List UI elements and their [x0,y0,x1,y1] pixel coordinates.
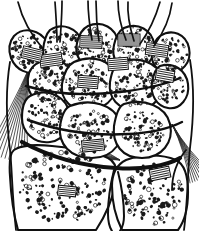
interosseous-ligament-band [145,43,168,58]
interosseous-ligament-band [78,75,99,88]
interosseous-ligament-band [118,34,140,46]
interosseous-ligament-band [81,139,104,152]
interosseous-ligament-band [108,57,129,70]
wrist-bones-drawing [0,0,199,231]
interosseous-ligament-band [39,53,62,68]
interosseous-ligament-band [58,185,77,197]
anatomical-illustration: Carpal bones of the wrist [0,0,199,231]
